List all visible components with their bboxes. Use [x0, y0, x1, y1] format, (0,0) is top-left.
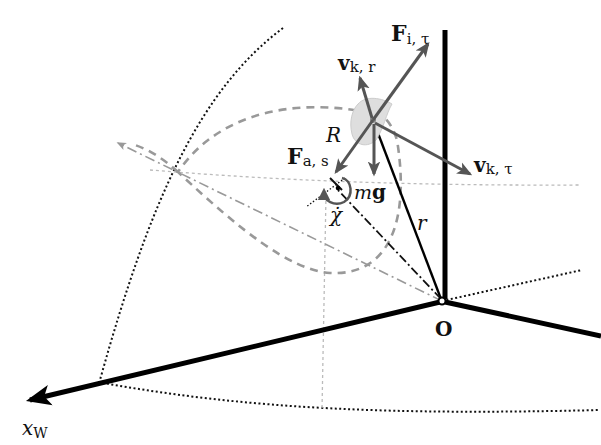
origin-point: [439, 298, 446, 305]
label-R: R: [325, 123, 341, 147]
sphere-arc-bottom: [98, 382, 600, 412]
pivot-dot: [336, 186, 341, 191]
y-axis: [445, 302, 601, 336]
v-k-tau-arrow: [375, 123, 470, 174]
guide-vertical-line: [322, 195, 326, 410]
arm-axis-dashdot-line: [336, 188, 441, 299]
label-F-a-s: Fa, s: [287, 143, 329, 170]
trajectory-loop-tail: [135, 145, 178, 172]
label-chi-dot: χ̇: [328, 203, 344, 227]
label-v-k-tau: vk, τ: [473, 153, 513, 178]
projection-dashdot-line: [118, 143, 442, 301]
F-i-tau-arrow: [373, 44, 428, 120]
sphere-arc-left: [100, 28, 283, 380]
label-v-k-r: vk, r: [337, 51, 376, 76]
label-F-i-tau: Fi, τ: [391, 20, 429, 48]
label-mg: mg: [354, 180, 386, 204]
x-w-axis: [30, 302, 440, 400]
label-x-w: xW: [22, 416, 48, 441]
label-origin: O: [435, 317, 452, 341]
equator-dotted-line: [442, 270, 582, 301]
label-r: r: [417, 211, 428, 235]
diagram-canvas: Fi, τ vk, r vk, τ Fa, s R mg χ̇ r O xW: [0, 0, 601, 445]
